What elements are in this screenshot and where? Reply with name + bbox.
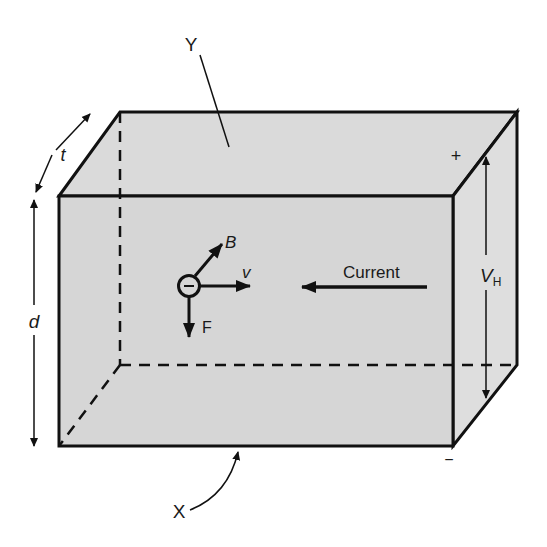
- top-face: [59, 112, 517, 196]
- label-d: d: [29, 311, 41, 332]
- front-face: [59, 196, 453, 446]
- label-x: X: [173, 501, 186, 522]
- label-current: Current: [343, 263, 400, 282]
- label-b: B: [225, 233, 236, 252]
- label-t: t: [60, 145, 66, 165]
- label-y: Y: [185, 34, 198, 55]
- vh-sub: H: [493, 275, 502, 289]
- leader-x: [190, 452, 238, 510]
- label-minus: −: [444, 451, 453, 468]
- label-plus: +: [451, 146, 462, 166]
- label-f: F: [202, 319, 212, 336]
- hall-effect-diagram: Y t d VH + − B v F Current X: [0, 0, 547, 547]
- thickness-arrow-down: [36, 155, 52, 192]
